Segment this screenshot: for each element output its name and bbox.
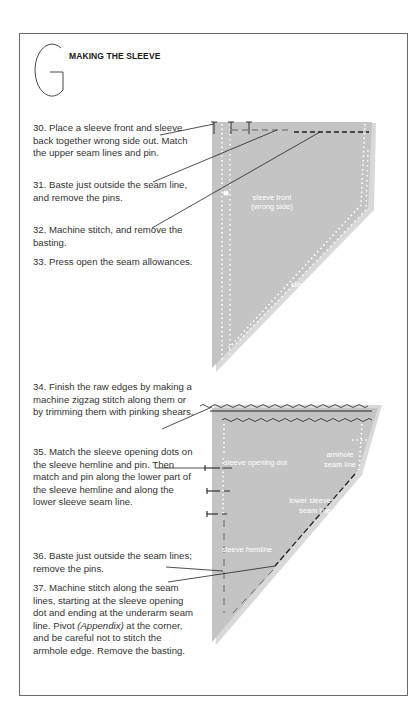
section-title: MAKING THE SLEEVE bbox=[69, 51, 160, 61]
step-34: 34. Finish the raw edges by making a mac… bbox=[33, 381, 198, 419]
step-30: 30. Place a sleeve front and sleeve back… bbox=[33, 122, 198, 160]
step-37: 37. Machine stitch along the seam lines,… bbox=[33, 582, 198, 658]
step-31: 31. Baste just outside the seam line, an… bbox=[33, 179, 198, 204]
step-35: 35. Match the sleeve opening dots on the… bbox=[33, 446, 198, 509]
section-letter-g bbox=[28, 38, 70, 102]
step-32: 32. Machine stitch, and remove the basti… bbox=[33, 224, 198, 249]
appendix-reference: (Appendix) bbox=[77, 620, 123, 631]
step-33: 33. Press open the seam allowances. bbox=[33, 256, 198, 269]
step-36: 36. Baste just outside the seam lines; r… bbox=[33, 550, 198, 575]
